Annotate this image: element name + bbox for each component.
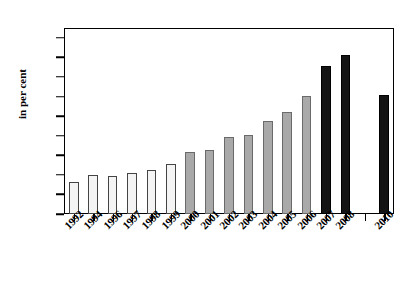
y-axis-tick-mark bbox=[56, 115, 64, 117]
bar bbox=[166, 164, 176, 214]
bar-chart: in per cent 024681012141618 199219941996… bbox=[0, 0, 413, 282]
bar bbox=[302, 96, 312, 214]
y-axis-tick-mark bbox=[56, 174, 64, 176]
y-axis-tick-mark bbox=[56, 96, 64, 98]
bar bbox=[341, 55, 351, 214]
y-axis-tick-mark bbox=[56, 57, 64, 59]
bar bbox=[282, 112, 292, 214]
bar bbox=[205, 150, 215, 214]
bar bbox=[185, 152, 195, 214]
y-axis-tick-mark bbox=[56, 37, 64, 39]
bar bbox=[321, 66, 331, 214]
bar-series bbox=[64, 28, 394, 214]
x-axis-tick-mark bbox=[365, 214, 366, 221]
bar bbox=[147, 170, 157, 214]
bar bbox=[379, 95, 389, 214]
bar bbox=[244, 135, 254, 214]
y-axis-tick-mark bbox=[56, 155, 64, 157]
bar bbox=[224, 137, 234, 214]
y-axis-tick-mark bbox=[56, 213, 64, 215]
y-axis-title: in per cent bbox=[16, 44, 28, 144]
y-axis-tick-mark bbox=[56, 194, 64, 196]
bar bbox=[263, 121, 273, 214]
y-axis-tick-mark bbox=[56, 135, 64, 137]
y-axis-tick-mark bbox=[56, 76, 64, 78]
